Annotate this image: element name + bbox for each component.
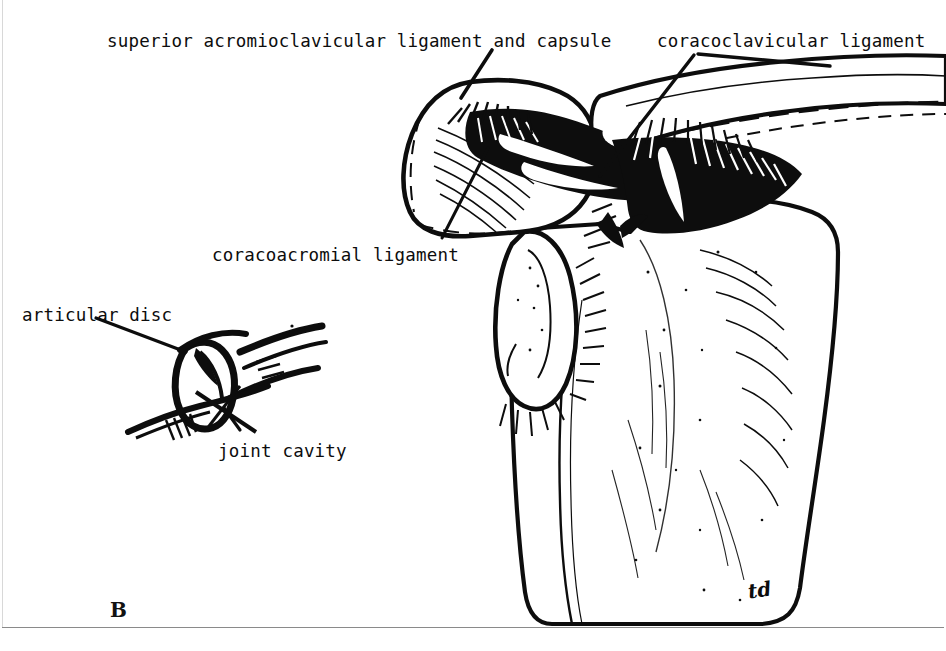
figure-page: superior acromioclavicular ligament and …: [0, 0, 946, 651]
label-coracoclavicular-ligament: coracoclavicular ligament: [657, 33, 925, 51]
label-articular-disc: articular disc: [22, 307, 172, 325]
label-coracoacromial-ligament: coracoacromial ligament: [212, 247, 459, 265]
artist-signature: td: [746, 577, 772, 604]
anatomical-illustration: [0, 0, 946, 651]
label-joint-cavity: joint cavity: [218, 443, 347, 461]
figure-letter-b: B: [110, 598, 127, 622]
label-superior-acromioclavicular-ligament: superior acromioclavicular ligament and …: [107, 33, 612, 51]
page-left-rule: [2, 0, 3, 628]
page-bottom-rule: [2, 627, 944, 628]
